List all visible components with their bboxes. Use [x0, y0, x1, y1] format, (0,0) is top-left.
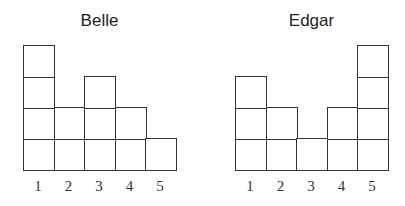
unit-square — [357, 45, 389, 78]
x-tick-label: 1 — [235, 178, 265, 195]
unit-square — [235, 76, 267, 109]
unit-square — [235, 107, 267, 140]
unit-square — [235, 138, 267, 171]
unit-square — [327, 107, 359, 140]
x-tick-label: 2 — [266, 178, 296, 195]
unit-square — [266, 107, 298, 140]
unit-square — [357, 107, 389, 140]
x-tick-label: 3 — [296, 178, 326, 195]
unit-square — [296, 138, 328, 171]
chart-title: Edgar — [235, 11, 388, 31]
unit-square — [357, 138, 389, 171]
unit-square — [266, 138, 298, 171]
unit-square — [357, 76, 389, 109]
unit-square — [327, 138, 359, 171]
x-tick-label: 5 — [357, 178, 387, 195]
x-tick-label: 4 — [327, 178, 357, 195]
edgar-chart: Edgar 12345 — [0, 0, 405, 206]
